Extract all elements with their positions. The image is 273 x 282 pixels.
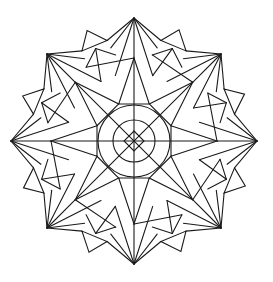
mandala-drawing [0,0,273,282]
mandala-canvas [0,0,273,282]
center-rings [51,58,217,224]
